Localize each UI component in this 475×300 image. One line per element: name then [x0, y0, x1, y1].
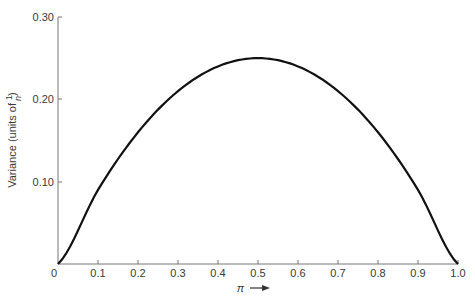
- x-axis-label: π: [237, 282, 270, 294]
- arrow-right-icon: [262, 285, 270, 291]
- variance-chart: 00.10.20.30.40.50.60.70.80.91.0 0.30 0.2…: [0, 0, 475, 300]
- svg-text:Variance (units of 1n): Variance (units of 1n): [4, 92, 23, 188]
- x-axis-label-text: π: [237, 282, 245, 294]
- y-tick-label: 0.10: [33, 176, 54, 188]
- y-axis-label-text: Variance (units of: [6, 100, 18, 188]
- x-tick-label: 0.8: [370, 267, 385, 279]
- x-tick-label: 1.0: [450, 267, 465, 279]
- x-axis: [58, 260, 458, 264]
- y-tick-label: 0.30: [33, 11, 54, 23]
- x-tick-label: 0.5: [250, 267, 265, 279]
- y-axis: [58, 17, 62, 264]
- x-tick-labels: 00.10.20.30.40.50.60.70.80.91.0: [51, 267, 466, 279]
- x-tick-label: 0.2: [130, 267, 145, 279]
- y-tick-labels: 0.30 0.20 0.10: [33, 11, 54, 188]
- x-tick-label: 0.3: [170, 267, 185, 279]
- x-tick-label: 0.7: [330, 267, 345, 279]
- y-axis-label: Variance (units of 1n): [4, 92, 23, 188]
- x-tick-label: 0.9: [410, 267, 425, 279]
- y-tick-label: 0.20: [33, 93, 54, 105]
- x-tick-label: 0.6: [290, 267, 305, 279]
- x-tick-label: 0: [51, 267, 57, 279]
- x-tick-label: 0.1: [90, 267, 105, 279]
- variance-curve: [58, 58, 458, 264]
- x-tick-label: 0.4: [210, 267, 225, 279]
